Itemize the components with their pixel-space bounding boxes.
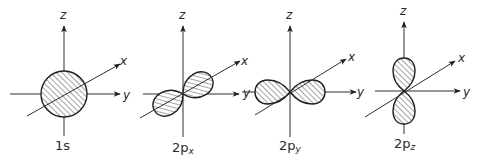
panel-2pz: z x y x y 2pz <box>347 4 471 152</box>
y-axis-label: y <box>122 88 131 102</box>
orbital-label: 1s <box>55 138 70 153</box>
x-axis <box>140 61 240 118</box>
z-axis-label: z <box>399 4 407 18</box>
orbital-diagram: z 1s z y x 2px z y x 2py <box>0 0 478 163</box>
z-axis-label: z <box>285 8 293 22</box>
orbital-label: 2py <box>279 138 302 154</box>
orbital-sphere <box>41 71 87 117</box>
y-axis-label: y <box>242 86 251 100</box>
z-axis-label: z <box>59 8 67 22</box>
panel-1s: z 1s <box>10 8 120 153</box>
orbital-label: 2pz <box>394 136 416 152</box>
panel-2px: z y x 2px <box>119 8 240 156</box>
orbital-label: 2px <box>172 140 195 156</box>
x-axis-label: x <box>457 51 466 65</box>
z-axis-label: z <box>178 8 186 22</box>
x-axis-label: x <box>240 54 249 68</box>
orbital-lobe-positive <box>393 58 415 91</box>
x-axis-label: x <box>119 54 128 68</box>
orbital-lobe-negative <box>393 91 415 124</box>
panel-2py: z y x 2py <box>240 8 356 154</box>
y-axis-label: y <box>356 85 365 99</box>
y-axis-label: y <box>462 85 471 99</box>
x-axis-label: x <box>347 50 356 64</box>
orbital-lobe-positive <box>290 80 325 104</box>
orbital-lobe-negative <box>255 80 290 104</box>
